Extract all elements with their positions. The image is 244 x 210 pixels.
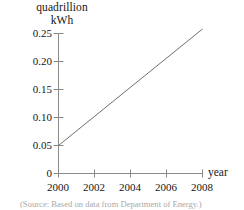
y-tick-label: 0.20 — [18, 56, 52, 67]
source-caption: (Source: Based on data from Department o… — [20, 199, 244, 209]
y-tick-label: 0.10 — [18, 112, 52, 123]
y-tick-label: 0.15 — [18, 84, 52, 95]
y-tick-label: 0.05 — [18, 140, 52, 151]
data-series-line — [59, 29, 203, 146]
x-tick-label: 2008 — [182, 182, 222, 193]
x-tick-label: 2002 — [74, 182, 114, 193]
x-tick-label: 2004 — [110, 182, 150, 193]
x-tick-label: 2000 — [38, 182, 78, 193]
chart-figure: quadrillion kWh 0.25 0.20 0.15 — [0, 0, 244, 210]
y-tick-label: 0 — [18, 168, 52, 179]
y-tick-label: 0.25 — [18, 28, 52, 39]
x-tick-label: 2006 — [146, 182, 186, 193]
x-axis-title: year — [208, 167, 228, 179]
